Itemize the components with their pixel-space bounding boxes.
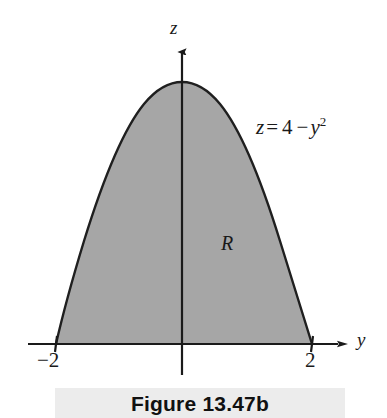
equation-label: z=4−y2 — [256, 117, 326, 138]
equation-equals: = — [264, 115, 280, 139]
figure-caption: Figure 13.47b — [55, 392, 345, 416]
equation-minus: − — [295, 115, 311, 139]
z-axis-label: z — [170, 18, 177, 37]
equation-variable: y — [310, 115, 319, 139]
equation-exponent: 2 — [320, 114, 327, 129]
region-label: R — [221, 233, 233, 253]
equation-lhs: z — [256, 115, 264, 139]
tick-label-two: 2 — [305, 350, 316, 371]
figure-container: z y R z=4−y2 −2 2 Figure 13.47b — [0, 0, 387, 418]
tick-label-minus-two: −2 — [37, 350, 59, 371]
equation-constant: 4 — [280, 115, 295, 139]
y-axis-label: y — [357, 330, 365, 349]
